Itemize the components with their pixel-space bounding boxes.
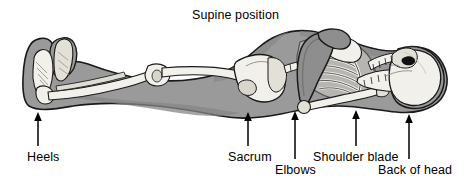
supine-position-figure: Supine position xyxy=(0,0,471,186)
arrow-shoulder-blade xyxy=(352,110,360,146)
label-heels: Heels xyxy=(27,150,59,164)
label-back-of-head: Back of head xyxy=(378,163,452,177)
label-elbows: Elbows xyxy=(275,163,316,177)
label-sacrum: Sacrum xyxy=(228,150,272,164)
label-shoulder-blade: Shoulder blade xyxy=(313,150,399,164)
arrow-heels xyxy=(34,112,42,146)
skull xyxy=(386,48,441,106)
arrow-back-of-head xyxy=(405,114,413,159)
arrow-elbows xyxy=(291,111,299,159)
